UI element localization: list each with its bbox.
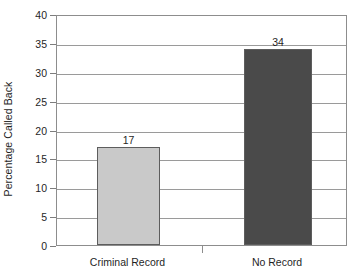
y-axis-tick-label: 35 — [7, 38, 47, 50]
y-axis-tick-label: 15 — [7, 153, 47, 165]
x-axis-divider-tick — [202, 246, 203, 253]
y-axis-tick-label: 10 — [7, 182, 47, 194]
y-axis-tick-label: 30 — [7, 67, 47, 79]
bar-no-record — [244, 49, 312, 245]
y-axis-tick-label: 20 — [7, 125, 47, 137]
plot-area: 1734 — [56, 15, 347, 246]
y-axis-tick-label: 25 — [7, 96, 47, 108]
y-axis-tick-label: 40 — [7, 9, 47, 21]
bar-value-label: 34 — [244, 36, 312, 48]
bar-criminal-record — [97, 147, 160, 245]
x-axis-label-no-record: No Record — [207, 256, 347, 268]
bar-value-label: 17 — [97, 134, 160, 146]
y-axis-tick-label: 0 — [7, 240, 47, 252]
x-axis-label-criminal-record: Criminal Record — [58, 256, 198, 268]
bar-chart-figure: Percentage Called Back 0510152025303540 … — [0, 0, 364, 278]
y-axis-tick-label: 5 — [7, 211, 47, 223]
y-axis-tick-mark — [50, 246, 56, 247]
